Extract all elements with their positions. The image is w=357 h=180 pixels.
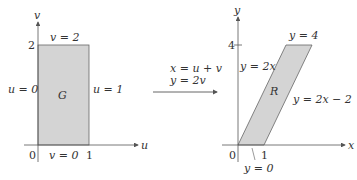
boundary-left: u = 0	[8, 83, 38, 96]
u-axis-label: u	[141, 139, 148, 152]
boundary-top: y = 4	[288, 29, 318, 42]
right-panel: y x 4 0 1 y = 4 y = 0 y = 2x y = 2x − 2 …	[222, 4, 355, 175]
diagram-svg: v u 2 0 1 v = 2 v = 0 u = 0 u = 1 G x = …	[0, 0, 357, 180]
origin-label: 0	[229, 149, 236, 162]
boundary-bottom: v = 0	[49, 149, 78, 162]
y0-leader	[252, 148, 255, 160]
equation-y: y = 2v	[169, 74, 206, 87]
u-tick-1: 1	[86, 149, 93, 162]
boundary-right: u = 1	[93, 83, 123, 96]
region-r-label: R	[269, 85, 278, 98]
transformation: x = u + v y = 2v	[153, 62, 223, 92]
boundary-top: v = 2	[50, 31, 79, 44]
boundary-right: y = 2x − 2	[292, 93, 352, 106]
boundary-bottom: y = 0	[243, 162, 273, 175]
x-tick-1: 1	[261, 149, 268, 162]
boundary-left: y = 2x	[239, 60, 276, 73]
y-axis-label: y	[233, 4, 241, 17]
v-tick-2: 2	[28, 39, 35, 52]
transformation-diagram: v u 2 0 1 v = 2 v = 0 u = 0 u = 1 G x = …	[0, 0, 357, 180]
x-axis-label: x	[348, 139, 355, 152]
origin-label: 0	[29, 149, 36, 162]
region-g-label: G	[58, 89, 67, 102]
left-panel: v u 2 0 1 v = 2 v = 0 u = 0 u = 1 G	[8, 9, 148, 162]
v-axis-label: v	[34, 9, 41, 22]
y-tick-4: 4	[228, 39, 235, 52]
